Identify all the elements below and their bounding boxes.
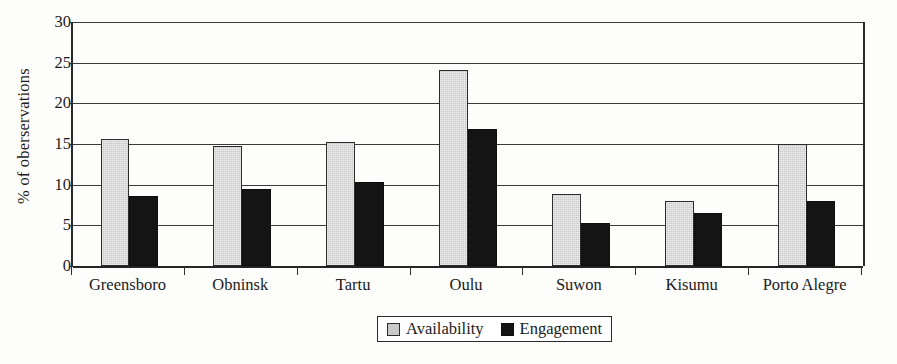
legend-label: Availability (406, 321, 484, 338)
y-tick-label: 5 (37, 217, 71, 234)
bar-group (186, 22, 299, 266)
x-tick-mark (861, 266, 862, 275)
bar-chart-figure: % of oberservations 051015202530 Greensb… (0, 0, 897, 364)
y-tick-label: 30 (37, 14, 71, 31)
bar-availability (778, 144, 807, 266)
bar-availability (665, 201, 694, 266)
bar-availability (213, 146, 242, 266)
bar-group (524, 22, 637, 266)
x-axis-labels: GreensboroObninskTartuOuluSuwonKisumuPor… (71, 276, 865, 302)
y-axis-ticks: 051015202530 (30, 22, 71, 266)
y-tick-label: 10 (37, 177, 71, 194)
bar-availability (101, 139, 130, 266)
bar-engagement (242, 189, 271, 266)
y-tick-label: 0 (37, 258, 71, 275)
bar-group (412, 22, 525, 266)
bar-engagement (129, 196, 158, 266)
x-tick-label-greensboro: Greensboro (89, 276, 166, 294)
y-tick-label: 15 (37, 136, 71, 153)
x-tick-mark (522, 266, 523, 275)
bar-group (299, 22, 412, 266)
x-tick-mark (748, 266, 749, 275)
x-tick-mark (410, 266, 411, 275)
y-tick-label: 20 (37, 95, 71, 112)
legend-entry-engagement: Engagement (501, 321, 602, 338)
x-tick-mark (635, 266, 636, 275)
availability-swatch (387, 323, 400, 336)
x-tick-label-oulu: Oulu (450, 276, 483, 294)
x-tick-label-obninsk: Obninsk (212, 276, 268, 294)
bar-group (73, 22, 186, 266)
bar-availability (326, 142, 355, 266)
x-tick-label-tartu: Tartu (336, 276, 371, 294)
bar-engagement (355, 182, 384, 266)
bar-engagement (694, 213, 723, 266)
bar-availability (552, 194, 581, 266)
bar-engagement (807, 201, 836, 266)
legend-entry-availability: Availability (387, 321, 484, 338)
x-tick-label-suwon: Suwon (556, 276, 602, 294)
bar-availability (439, 70, 468, 266)
y-tick-label: 25 (37, 55, 71, 72)
x-tick-mark (297, 266, 298, 275)
x-tick-mark (184, 266, 185, 275)
plot-inner (73, 22, 863, 266)
chart-legend: AvailabilityEngagement (377, 316, 612, 342)
x-tick-label-porto-alegre: Porto Alegre (763, 276, 847, 294)
x-tick-label-kisumu: Kisumu (666, 276, 718, 294)
engagement-swatch (501, 323, 514, 336)
bar-engagement (581, 223, 610, 266)
bar-engagement (468, 129, 497, 266)
bar-group (637, 22, 750, 266)
bar-group (750, 22, 863, 266)
legend-label: Engagement (520, 321, 602, 338)
x-tick-mark (71, 266, 72, 275)
plot-area (71, 22, 865, 266)
